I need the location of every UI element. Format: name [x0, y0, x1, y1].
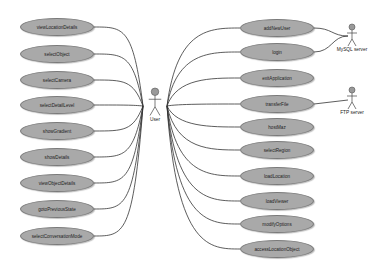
- use-case-addNewUser: addNewUser: [240, 19, 314, 37]
- use-case-login: login: [240, 43, 314, 61]
- use-case-label: selectObject: [44, 52, 69, 57]
- use-case-label: loadLocation: [264, 174, 290, 179]
- use-case-selectCamera: selectCamera: [20, 71, 94, 89]
- use-case-modifyOptions: modifyOptions: [240, 215, 314, 233]
- actor-label-mysql: MySQL server: [337, 47, 367, 52]
- use-case-selectConversationMode: selectConversationMode: [20, 227, 94, 245]
- association-transferFile-ftp: [314, 100, 348, 104]
- association-modifyOptions: [167, 106, 240, 224]
- use-case-selectRegion: selectRegion: [240, 141, 314, 159]
- association-addNewUser: [167, 28, 240, 106]
- use-case-transferFile: transferFile: [240, 95, 314, 113]
- association-selectCamera: [94, 80, 143, 106]
- use-case-viewLocationDetails: viewLocationDetails: [20, 18, 94, 36]
- association-selectDetailLevel: [94, 105, 143, 106]
- association-hostMaz: [167, 106, 240, 127]
- association-loadLocation: [167, 106, 240, 176]
- use-case-label: addNewUser: [264, 26, 291, 31]
- association-transferFile: [167, 104, 240, 106]
- use-case-accessLocationObject: accessLocationObject: [240, 240, 314, 258]
- use-case-label: exitApplication: [262, 76, 292, 81]
- use-case-viewObjectDetails: viewObjectDetails: [20, 174, 94, 192]
- association-gotoPreviousState: [94, 106, 143, 209]
- association-addNewUser-mysql: [314, 28, 348, 36]
- use-case-label: selectConversationMode: [32, 234, 83, 239]
- actor-label-user: User: [150, 117, 160, 122]
- actor-label-ftp: FTP server: [340, 110, 364, 115]
- use-case-label: loadViewer: [266, 199, 289, 204]
- association-login: [167, 52, 240, 106]
- association-selectRegion: [167, 106, 240, 150]
- actor-user-icon: [149, 88, 162, 116]
- use-case-label: hostMaz: [268, 125, 285, 130]
- use-case-label: viewLocationDetails: [37, 25, 78, 30]
- actor-ftp-icon: [347, 87, 357, 109]
- use-case-label: selectCamera: [43, 78, 71, 83]
- actor-mysql-icon: [347, 24, 357, 46]
- association-showGradient: [94, 106, 143, 131]
- use-case-gotoPreviousState: gotoPreviousState: [20, 200, 94, 218]
- use-case-label: modifyOptions: [262, 222, 291, 227]
- use-case-label: accessLocationObject: [255, 247, 300, 252]
- use-case-showDetails: showDetails: [20, 148, 94, 166]
- use-case-label: login: [272, 50, 282, 55]
- association-viewLocationDetails: [94, 27, 143, 106]
- association-accessLocationObject: [167, 106, 240, 249]
- use-case-label: selectDetailLevel: [40, 103, 75, 108]
- association-selectConversationMode: [94, 106, 143, 236]
- use-case-loadViewer: loadViewer: [240, 192, 314, 210]
- use-case-label: transferFile: [266, 102, 289, 107]
- association-exitApplication: [167, 78, 240, 106]
- association-viewObjectDetails: [94, 106, 143, 183]
- use-case-loadLocation: loadLocation: [240, 167, 314, 185]
- use-case-showGradient: showGradient: [20, 122, 94, 140]
- use-case-exitApplication: exitApplication: [240, 69, 314, 87]
- use-case-selectObject: selectObject: [20, 45, 94, 63]
- use-case-diagram: viewLocationDetailsselectObjectselectCam…: [0, 0, 380, 272]
- use-case-hostMaz: hostMaz: [240, 118, 314, 136]
- use-case-label: showDetails: [45, 155, 70, 160]
- use-case-label: viewObjectDetails: [39, 181, 76, 186]
- use-case-selectDetailLevel: selectDetailLevel: [20, 96, 94, 114]
- use-case-label: selectRegion: [264, 148, 291, 153]
- use-case-label: gotoPreviousState: [38, 207, 76, 212]
- use-case-label: showGradient: [43, 129, 71, 134]
